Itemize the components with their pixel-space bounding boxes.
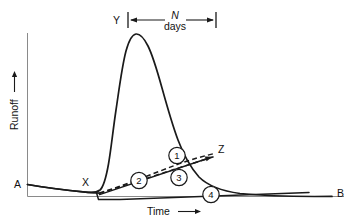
hydrograph-figure: N days Y 1 2 xyxy=(0,0,356,224)
y-axis-arrow-head xyxy=(12,71,17,77)
callout-3-label: 3 xyxy=(176,172,181,183)
callout-4-group: 4 xyxy=(203,186,219,202)
callout-1-label: 1 xyxy=(174,150,179,161)
y-axis-label-group: Runoff xyxy=(8,71,20,130)
separation-line-3-arrowhead xyxy=(205,157,213,162)
separation-line-1-curved-dashed xyxy=(100,154,215,194)
dimension-unit-label: days xyxy=(164,20,186,32)
x-axis-arrow-head xyxy=(195,209,201,214)
callout-2-label: 2 xyxy=(136,175,141,186)
point-label-z: Z xyxy=(218,143,225,155)
point-label-b: B xyxy=(337,187,344,199)
point-label-y: Y xyxy=(113,14,120,26)
n-days-dimension-group: N days Y xyxy=(113,9,216,32)
hydrograph-chart-svg: N days Y 1 2 xyxy=(0,0,356,224)
separation-line-3-straight-solid xyxy=(100,159,208,195)
callout-4-label: 4 xyxy=(208,189,213,200)
y-axis-label-text: Runoff xyxy=(8,99,20,130)
x-axis-label-group: Time xyxy=(147,205,201,217)
dimension-right-arrowhead xyxy=(207,17,214,22)
callout-2-group: 2 xyxy=(131,172,147,188)
point-label-a: A xyxy=(14,178,21,190)
point-label-x: X xyxy=(82,176,89,188)
callout-3-group: 3 xyxy=(171,169,187,185)
dimension-left-arrowhead xyxy=(130,17,137,22)
callout-1-group: 1 xyxy=(169,147,185,163)
x-axis-label-text: Time xyxy=(147,205,170,217)
